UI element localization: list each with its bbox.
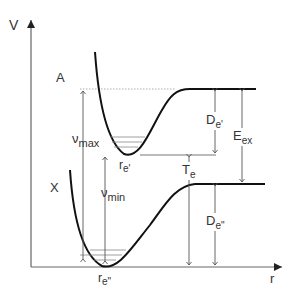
re-lower-label: re" <box>98 271 112 287</box>
nu-max-label: νmax <box>72 131 100 149</box>
r-axis-label: r <box>270 271 275 286</box>
state-x-label: X <box>50 180 59 195</box>
lower-state-curve <box>70 170 265 267</box>
re-upper-label: re' <box>119 158 131 174</box>
state-a-label: A <box>56 70 65 85</box>
v-axis-label: V <box>9 17 19 33</box>
potential-energy-diagram: V r A X νmax νmin re' re" De' Eex Te De" <box>0 0 303 294</box>
